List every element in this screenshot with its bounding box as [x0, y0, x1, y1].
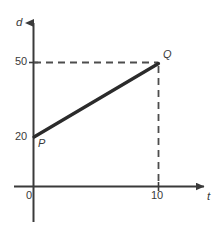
graph-canvas [0, 0, 222, 225]
x-tick-label-10: 10 [151, 190, 163, 201]
y-tick-label-50: 50 [15, 56, 27, 67]
distance-time-graph: d t 50 20 0 10 P Q [0, 0, 222, 225]
segment-PQ [34, 64, 159, 138]
x-tick-label-0: 0 [26, 190, 32, 201]
y-tick-label-20: 20 [15, 131, 27, 142]
y-axis-label: d [16, 17, 22, 29]
point-label-p: P [38, 138, 45, 149]
point-label-q: Q [163, 49, 172, 60]
x-axis-label: t [207, 191, 210, 203]
